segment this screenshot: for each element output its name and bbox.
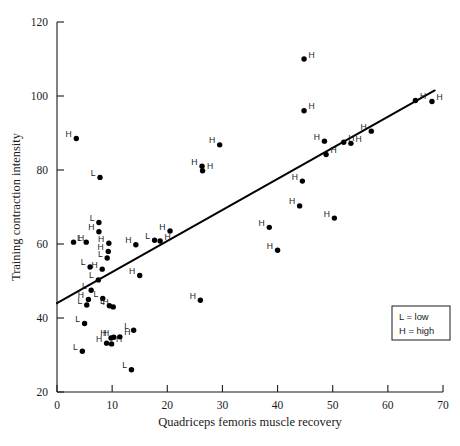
data-point-label: L: [98, 249, 103, 259]
data-point-marker: [157, 238, 162, 243]
data-point-marker: [80, 349, 85, 354]
data-point: H: [429, 92, 442, 104]
data-point-marker: [97, 175, 102, 180]
legend-entry-low: L = low: [399, 311, 429, 322]
data-point-label: L: [77, 233, 82, 243]
y-axis-title: Training contraction intensity: [9, 132, 23, 281]
data-points: HHLLLHLHHHLLLHLLLHLLHHHHHLLHHLHHHHHHHHHH…: [66, 50, 443, 373]
legend: L = low H = high: [392, 306, 450, 340]
x-tick-label: 70: [437, 399, 449, 411]
data-point-label: H: [267, 241, 273, 251]
y-axis-ticks: 20406080100120: [31, 16, 64, 398]
data-point: H: [314, 132, 327, 144]
data-point-marker: [86, 297, 91, 302]
data-point-label: H: [88, 222, 94, 232]
data-point-label: L: [77, 296, 82, 306]
data-point-marker: [267, 225, 272, 230]
data-point-marker: [332, 215, 337, 220]
data-point-label: L: [145, 231, 150, 241]
data-point-marker: [152, 238, 157, 243]
y-tick-label: 20: [37, 386, 49, 398]
data-point-label: H: [324, 209, 330, 219]
data-point-label: H: [436, 92, 442, 102]
data-point-marker: [300, 178, 305, 183]
data-point: H: [190, 291, 203, 303]
data-point-marker: [71, 239, 76, 244]
data-point: L: [145, 231, 157, 243]
data-point-marker: [133, 242, 138, 247]
data-point: H: [191, 157, 204, 169]
data-point-marker: [301, 56, 306, 61]
data-point: H: [413, 91, 426, 103]
x-axis-ticks: 010203040506070: [54, 385, 449, 411]
y-tick-label: 60: [37, 238, 49, 250]
data-point-marker: [84, 302, 89, 307]
data-point-label: H: [159, 222, 165, 232]
y-tick-label: 80: [37, 164, 49, 176]
data-point-label: H: [103, 328, 109, 338]
data-point-label: L: [93, 289, 98, 299]
data-point-marker: [323, 152, 328, 157]
data-point-marker: [301, 108, 306, 113]
data-point-marker: [200, 168, 205, 173]
data-point-label: H: [309, 50, 315, 60]
data-point-label: H: [314, 132, 320, 142]
data-point-marker: [109, 341, 114, 346]
data-point-label: L: [122, 360, 127, 370]
x-tick-label: 60: [382, 399, 394, 411]
data-point: H: [301, 101, 314, 113]
data-point-marker: [137, 273, 142, 278]
chart-canvas: 20406080100120 010203040506070 Quadricep…: [0, 0, 460, 446]
data-point: L: [91, 168, 103, 180]
data-point-marker: [96, 220, 101, 225]
data-point-marker: [104, 255, 109, 260]
data-point-label: L: [75, 314, 80, 324]
x-tick-label: 40: [272, 399, 284, 411]
scatter-plot-figure: 20406080100120 010203040506070 Quadricep…: [0, 0, 460, 446]
data-point-marker: [341, 140, 346, 145]
data-point: L: [73, 342, 85, 354]
data-point-label: H: [207, 161, 213, 171]
y-tick-label: 100: [31, 90, 49, 102]
data-point: H: [129, 266, 142, 278]
x-tick-label: 30: [217, 399, 229, 411]
data-point-marker: [429, 99, 434, 104]
data-point-marker: [198, 298, 203, 303]
regression-line: [57, 90, 435, 303]
y-tick-label: 40: [37, 312, 49, 324]
data-point-marker: [275, 248, 280, 253]
data-point: H: [209, 135, 222, 147]
x-tick-label: 50: [327, 399, 339, 411]
data-point-label: H: [66, 129, 72, 139]
data-point: H: [292, 172, 305, 184]
data-point-label: L: [89, 270, 94, 280]
data-point-label: H: [91, 260, 97, 270]
data-point: L: [122, 360, 134, 372]
data-point: H: [324, 209, 337, 221]
data-point-marker: [167, 228, 172, 233]
data-point-label: H: [190, 291, 196, 301]
data-point-label: H: [103, 297, 109, 307]
data-point-label: L: [91, 168, 96, 178]
x-tick-label: 10: [106, 399, 118, 411]
data-point-label: H: [125, 235, 131, 245]
x-tick-label: 20: [162, 399, 174, 411]
data-point-marker: [74, 136, 79, 141]
data-point-marker: [82, 321, 87, 326]
data-point-label: H: [361, 122, 367, 132]
data-point-marker: [413, 98, 418, 103]
data-point-label: H: [259, 218, 265, 228]
data-point-label: H: [292, 172, 298, 182]
data-point-marker: [104, 340, 109, 345]
data-point-marker: [117, 334, 122, 339]
data-point-label: L: [81, 257, 86, 267]
data-point-label: H: [309, 101, 315, 111]
data-point-marker: [369, 128, 374, 133]
data-point-label: L: [124, 321, 129, 331]
data-point-marker: [111, 304, 116, 309]
data-point-label: H: [191, 157, 197, 167]
y-tick-label: 120: [31, 16, 49, 28]
data-point-label: H: [355, 134, 361, 144]
data-point-marker: [96, 277, 101, 282]
data-point-label: H: [420, 91, 426, 101]
